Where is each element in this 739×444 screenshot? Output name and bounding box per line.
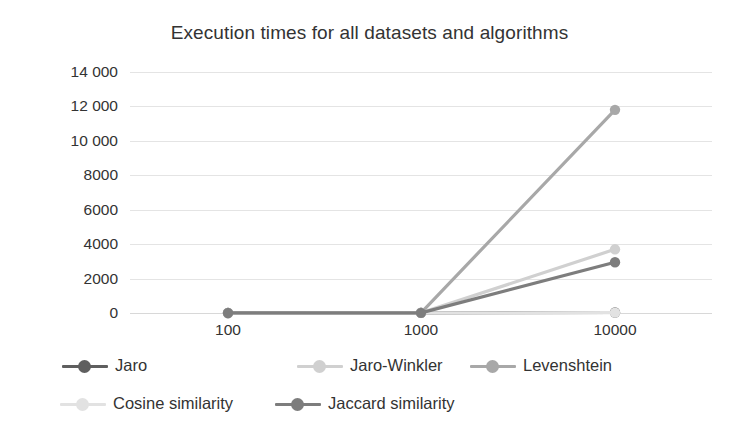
data-point <box>610 257 620 267</box>
data-point <box>610 105 620 115</box>
legend-item-cosine-similarity[interactable]: Cosine similarity <box>60 394 233 413</box>
legend-label: Jaro-Winkler <box>350 356 443 375</box>
series-lines <box>130 72 712 313</box>
legend-label: Cosine similarity <box>113 394 233 413</box>
legend-label: Jaro <box>115 356 147 375</box>
legend-item-levenshtein[interactable]: Levenshtein <box>470 356 612 375</box>
legend-row: JaroJaro-WinklerLevenshtein <box>0 352 739 390</box>
series-jaro-winkler <box>223 244 620 318</box>
series-levenshtein <box>223 105 620 318</box>
legend-swatch-icon <box>60 396 106 412</box>
chart-legend: JaroJaro-WinklerLevenshtein Cosine simil… <box>0 352 739 428</box>
legend-item-jaro[interactable]: Jaro <box>62 356 147 375</box>
y-axis-tick-label: 8000 <box>0 166 118 184</box>
legend-swatch-icon <box>62 358 108 374</box>
data-point <box>416 308 426 318</box>
legend-row: Cosine similarityJaccard similarity <box>0 390 739 428</box>
legend-swatch-icon <box>470 358 516 374</box>
x-axis-tick-label: 100 <box>168 321 288 339</box>
data-point <box>610 244 620 254</box>
y-axis-tick-label: 0 <box>0 304 118 322</box>
y-axis-tick-label: 14 000 <box>0 63 118 81</box>
data-point <box>610 307 620 317</box>
chart-container: Execution times for all datasets and alg… <box>0 0 739 444</box>
x-axis-tick-label: 10000 <box>555 321 675 339</box>
y-axis-tick-label: 10 000 <box>0 132 118 150</box>
legend-label: Jaccard similarity <box>328 394 455 413</box>
legend-swatch-icon <box>275 396 321 412</box>
legend-item-jaccard-similarity[interactable]: Jaccard similarity <box>275 394 455 413</box>
legend-swatch-icon <box>297 358 343 374</box>
chart-title: Execution times for all datasets and alg… <box>0 22 739 44</box>
y-axis-tick-label: 12 000 <box>0 97 118 115</box>
x-axis-tick-label: 1000 <box>361 321 481 339</box>
legend-label: Levenshtein <box>523 356 612 375</box>
y-axis-tick-label: 4000 <box>0 235 118 253</box>
y-axis-tick-label: 2000 <box>0 270 118 288</box>
y-axis-tick-label: 6000 <box>0 201 118 219</box>
legend-item-jaro-winkler[interactable]: Jaro-Winkler <box>297 356 443 375</box>
data-point <box>223 308 233 318</box>
plot-area: 0200040006000800010 00012 00014 000 1001… <box>130 72 712 313</box>
